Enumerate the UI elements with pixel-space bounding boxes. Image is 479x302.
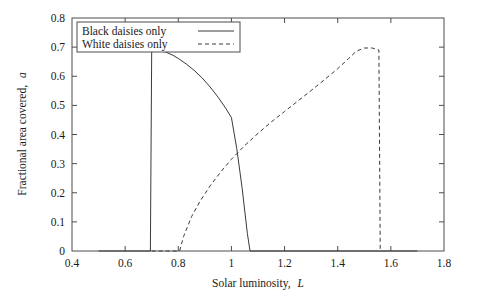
y-tick-label-4: 0.4 — [51, 129, 66, 141]
y-tick-label-3: 0.3 — [51, 158, 66, 170]
y-axis-label: Fractional area covered, a — [16, 72, 29, 196]
y-tick-label-8: 0.8 — [51, 12, 66, 24]
data-series-group — [99, 48, 418, 251]
x-tick-label-5: 1.4 — [331, 257, 346, 269]
plot-frame — [72, 18, 444, 251]
chart-figure: 0.40.60.811.21.41.61.8 00.10.20.30.40.50… — [0, 0, 479, 302]
x-tick-label-4: 1.2 — [277, 257, 292, 269]
chart-legend: Black daisies only White daisies only — [77, 22, 240, 52]
x-tick-label-7: 1.8 — [437, 257, 452, 269]
x-tick-label-0: 0.4 — [65, 257, 80, 269]
daisyworld-line-chart: 0.40.60.811.21.41.61.8 00.10.20.30.40.50… — [0, 0, 479, 302]
x-axis-label-text: Solar luminosity, — [212, 277, 291, 290]
y-tick-label-7: 0.7 — [51, 41, 66, 53]
legend-label-black-daisies: Black daisies only — [82, 25, 167, 38]
x-tick-label-2: 0.8 — [171, 257, 186, 269]
y-axis-tick-labels: 00.10.20.30.40.50.60.70.8 — [51, 12, 66, 257]
y-axis-label-text: Fractional area covered, — [16, 85, 29, 196]
x-tick-label-6: 1.6 — [384, 257, 399, 269]
x-axis-label-symbol: L — [296, 277, 303, 289]
y-tick-label-6: 0.6 — [51, 70, 66, 82]
series-line-white-daisies-only — [152, 48, 381, 251]
y-tick-label-2: 0.2 — [51, 187, 66, 199]
y-axis-label-symbol: a — [16, 72, 28, 78]
x-tick-label-3: 1 — [229, 257, 235, 269]
x-axis-label: Solar luminosity, L — [212, 277, 304, 290]
y-tick-label-0: 0 — [59, 245, 65, 257]
x-axis-tick-labels: 0.40.60.811.21.41.61.8 — [65, 257, 452, 269]
legend-label-white-daisies: White daisies only — [82, 38, 168, 51]
axis-ticks — [72, 18, 444, 251]
series-line-black-daisies-only — [99, 49, 418, 251]
x-tick-label-1: 0.6 — [118, 257, 133, 269]
y-tick-label-1: 0.1 — [51, 216, 66, 228]
y-tick-label-5: 0.5 — [51, 99, 66, 111]
